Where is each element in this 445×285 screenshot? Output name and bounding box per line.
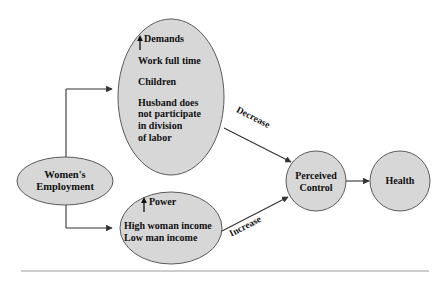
power-shape [120,192,222,264]
health-shape [370,151,430,211]
arrow-demands-to-control [224,128,291,162]
path-diagram: Women's Employment Demands Work full tim… [0,0,445,285]
diagram-canvas [0,0,445,285]
perceived-control-shape [286,151,346,211]
womens-employment-shape [17,157,113,205]
demands-shape [118,19,224,175]
